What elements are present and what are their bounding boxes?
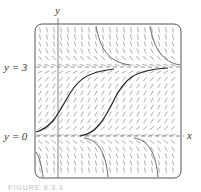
x-axis-label: x <box>187 130 192 141</box>
solution-curve-lower-edge <box>36 152 43 177</box>
equilibrium-label-y3: y = 3 <box>4 62 27 73</box>
equilibrium-label-y0: y = 0 <box>4 131 27 142</box>
slope-field-figure: y x y = 3 y = 0 FIGURE 9.3.1 <box>0 0 201 192</box>
solution-curve-upper-2 <box>150 26 180 65</box>
plot-frame <box>35 24 181 178</box>
solution-curve-lower-2 <box>134 138 158 177</box>
figure-caption: FIGURE 9.3.1 <box>8 184 64 191</box>
y-axis-label: y <box>55 5 60 16</box>
solution-curve-2 <box>80 68 168 136</box>
slope-field-plot <box>0 0 201 192</box>
